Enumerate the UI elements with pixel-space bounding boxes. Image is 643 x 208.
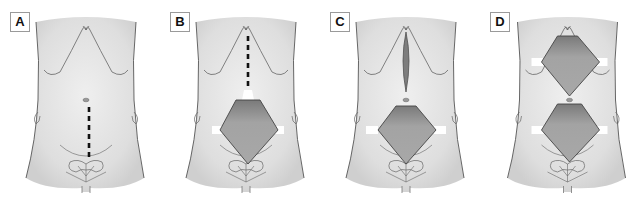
panel-c: C [320, 0, 480, 208]
panel-label-a: A [10, 12, 30, 32]
retractor-top [242, 90, 254, 100]
panel-label-d: D [490, 12, 510, 32]
panel-b: B [160, 0, 320, 208]
panel-a: A [0, 0, 160, 208]
panel-label-c: C [330, 12, 350, 32]
panel-d: D [480, 0, 643, 208]
retractor-left [366, 126, 378, 134]
panel-label-b: B [170, 12, 190, 32]
